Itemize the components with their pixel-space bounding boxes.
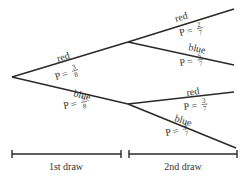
label-red-red: red — [173, 10, 188, 24]
branch-blue-red — [128, 92, 234, 104]
branch-blue-blue — [128, 104, 236, 148]
denominator: 7 — [198, 28, 204, 37]
p-text: P = — [183, 100, 198, 112]
p-text: P = — [179, 55, 194, 68]
p-text: P = — [164, 125, 179, 138]
denominator: 8 — [73, 70, 79, 79]
denominator: 7 — [184, 129, 189, 138]
outcome-text: red — [186, 85, 200, 98]
denominator: 8 — [82, 102, 87, 111]
p-text: P = — [53, 67, 69, 82]
second-draw-bar — [129, 150, 237, 158]
first-draw-bar — [12, 150, 121, 158]
outcome-text: red — [55, 50, 70, 64]
prob-blue-blue: P = 4 7 — [164, 121, 190, 141]
p-text: P = — [178, 24, 194, 38]
prob-red-blue: P = 5 7 — [178, 52, 204, 71]
p-text: P = — [62, 98, 77, 111]
prob-red-red: P = 2 7 — [178, 20, 205, 41]
prob-first-red: P = 3 8 — [53, 62, 81, 84]
prob-first-blue: P = 5 8 — [62, 94, 88, 114]
probability-tree-diagram: red P = 3 8 blue P = 5 8 red P = 2 7 blu… — [0, 0, 247, 181]
outcome-text: red — [173, 10, 188, 24]
denominator: 7 — [203, 105, 208, 113]
label-blue-red: red — [186, 85, 200, 98]
prob-blue-red: P = 3 7 — [183, 97, 209, 115]
first-draw-label: 1st draw — [49, 161, 84, 172]
denominator: 7 — [198, 60, 203, 68]
second-draw-label: 2nd draw — [164, 161, 202, 172]
label-first-red: red — [55, 50, 70, 64]
